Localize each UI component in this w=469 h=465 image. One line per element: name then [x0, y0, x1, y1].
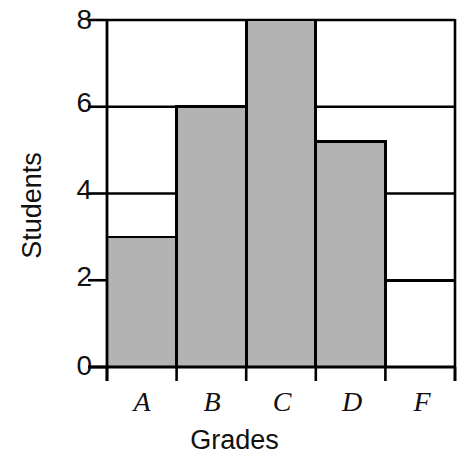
gridlines-group	[107, 20, 455, 280]
bar-b[interactable]	[177, 107, 247, 367]
chart-figure: Students 8 6 4 2 0 A B C D F Grades	[0, 0, 469, 465]
y-tick-label-4: 4	[46, 176, 92, 204]
y-tick-label-2: 2	[46, 263, 92, 291]
axis-ticks-group	[88, 20, 455, 381]
bar-d[interactable]	[316, 141, 386, 367]
x-tick-label-d: D	[317, 388, 387, 416]
axis-group	[88, 19, 455, 381]
x-tick-label-c: C	[247, 388, 317, 416]
x-tick-label-f: F	[387, 388, 457, 416]
y-tick-label-6: 6	[46, 89, 92, 117]
bar-c[interactable]	[246, 20, 316, 367]
bars-group	[107, 20, 455, 367]
x-tick-label-b: B	[177, 388, 247, 416]
x-tick-label-a: A	[107, 388, 177, 416]
x-axis-title: Grades	[0, 425, 469, 456]
bar-f[interactable]	[385, 280, 455, 367]
bar-a[interactable]	[107, 237, 177, 367]
y-tick-label-8: 8	[46, 6, 92, 34]
y-axis-title: Students	[17, 116, 48, 296]
y-tick-label-0: 0	[46, 352, 92, 380]
